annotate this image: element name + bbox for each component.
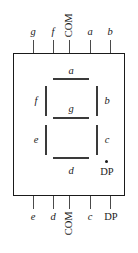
segment-e-bar (45, 125, 47, 155)
pin-lead-e (33, 196, 34, 209)
segment-a-bar (53, 78, 89, 80)
segment-g-label: g (64, 104, 78, 115)
segment-c-bar (96, 125, 98, 155)
segment-f-bar (45, 86, 47, 116)
pin-lead-d (53, 196, 54, 209)
segment-a-label: a (64, 66, 78, 77)
pin-lead-com-top (69, 40, 70, 53)
pin-lead-dp (110, 196, 111, 209)
segment-d-bar (53, 157, 89, 159)
pin-label-e: e (26, 212, 40, 223)
decimal-point-label: DP (98, 167, 116, 178)
pin-lead-a (90, 40, 91, 53)
pin-lead-c (90, 196, 91, 209)
pin-label-f: f (46, 27, 60, 38)
segment-g-bar (53, 117, 89, 119)
pin-label-dp: DP (101, 212, 121, 223)
segment-f-label: f (30, 96, 42, 107)
pin-lead-com-bottom (69, 196, 70, 209)
pin-label-com-bottom: COM (64, 210, 75, 236)
pin-label-c: c (83, 212, 97, 223)
pin-lead-g (33, 40, 34, 53)
pin-label-g: g (26, 27, 40, 38)
pin-label-d: d (46, 212, 60, 223)
pin-lead-b (110, 40, 111, 53)
segment-e-label: e (30, 135, 42, 146)
segment-c-label: c (101, 135, 113, 146)
pin-label-a: a (83, 27, 97, 38)
pin-lead-f (53, 40, 54, 53)
segment-d-label: d (64, 166, 78, 177)
segment-b-bar (96, 86, 98, 116)
segment-b-label: b (101, 96, 113, 107)
pin-label-com-top: COM (64, 12, 75, 38)
pin-label-b: b (103, 27, 117, 38)
seven-segment-display-diagram: g f COM a b a f b g e c d DP e d COM c D… (0, 0, 138, 253)
